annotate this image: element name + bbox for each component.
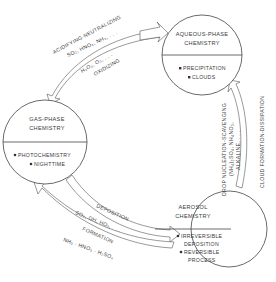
edge-label-cloud-formation: CLOUD FORMATION-DISSIPATION [259, 96, 265, 188]
aqueous-phase-item-1: PRECIPITATION [183, 65, 226, 71]
aerosol-item-1: IRREVERSIBLE [181, 233, 223, 239]
edge-label-nh4-so4: (NH₄)₂SO₄, NH₄NO₃, [228, 122, 234, 176]
edge-label-alkaline: ALKALINE, . . . [235, 131, 241, 170]
node-aerosol: AEROSOL CHEMISTRY IRREVERSIBLE DEPOSITIO… [155, 191, 267, 267]
gas-phase-title-1: GAS-PHASE [29, 116, 64, 122]
edge-label-drop-nucleation: DROP NUCLEATION-SCAVENGING [221, 103, 227, 196]
bullet-icon [180, 251, 183, 254]
gas-phase-item-2: NIGHTTIME [34, 161, 65, 167]
aerosol-item-4: PROCESS [188, 257, 216, 263]
aerosol-item-3: REVERSIBLE [184, 249, 220, 255]
gas-phase-item-1: PHOTOCHEMISTRY [18, 152, 71, 158]
bullet-icon [188, 76, 190, 78]
aerosol-title-1: AEROSOL [178, 204, 207, 210]
arrow-into-aqueous [140, 22, 168, 42]
node-gas-phase: GAS-PHASE CHEMISTRY PHOTOCHEMISTRY NIGHT… [3, 100, 87, 184]
bullet-icon [30, 163, 33, 166]
aerosol-item-2: DEPOSITION [184, 241, 219, 247]
aqueous-phase-title-2: CHEMISTRY [184, 40, 220, 46]
arrow-gas-aerosol-upper [66, 175, 180, 242]
bullet-icon [177, 235, 180, 238]
aerosol-title-2: CHEMISTRY [175, 213, 211, 219]
aqueous-phase-title-1: AQUEOUS-PHASE [176, 31, 229, 37]
atmospheric-chemistry-diagram: GAS-PHASE CHEMISTRY PHOTOCHEMISTRY NIGHT… [0, 0, 276, 282]
aqueous-phase-item-2: CLOUDS [192, 74, 216, 80]
bullet-icon [179, 67, 181, 69]
bullet-icon [14, 154, 17, 157]
node-aqueous-phase: AQUEOUS-PHASE CHEMISTRY PRECIPITATION CL… [162, 15, 242, 95]
gas-phase-title-2: CHEMISTRY [29, 125, 65, 131]
